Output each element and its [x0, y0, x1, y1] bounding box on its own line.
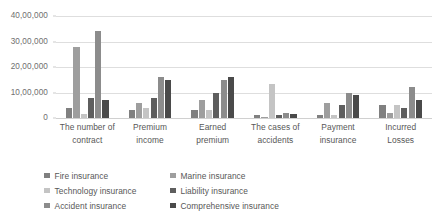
legend-label: Technology insurance — [55, 186, 137, 196]
bar — [276, 115, 282, 118]
bar — [346, 93, 352, 119]
y-axis-tick-label: 0 — [0, 114, 48, 122]
legend-swatch-icon — [44, 203, 50, 209]
bar — [151, 98, 157, 118]
bar — [324, 103, 330, 118]
bar — [317, 115, 323, 118]
x-axis-category-label: IncurredLosses — [369, 121, 432, 146]
legend-label: Liability insurance — [181, 186, 249, 196]
bar — [353, 95, 359, 118]
x-axis: The number ofcontractPremiumincomeEarned… — [56, 121, 432, 146]
bar — [283, 113, 289, 118]
bar — [394, 105, 400, 118]
legend-label: Fire insurance — [55, 171, 109, 181]
bars-layer — [56, 16, 432, 118]
x-axis-category-line: Incurred — [369, 121, 432, 134]
x-axis-category-line: income — [119, 134, 182, 147]
bar — [206, 110, 212, 118]
bar — [66, 108, 72, 118]
x-axis-category-label: Premiumincome — [119, 121, 182, 146]
x-axis-category-line: contract — [56, 134, 119, 147]
x-axis-category-line: The number of — [56, 121, 119, 134]
y-axis-tick-label: 10,00,000 — [0, 88, 48, 96]
legend-item[interactable]: Accident insurance — [44, 198, 170, 212]
x-axis-category-label: The cases ofaccidents — [244, 121, 307, 146]
legend-item[interactable]: Comprehensive insurance — [170, 198, 296, 212]
bar-group — [244, 16, 307, 118]
bar — [136, 103, 142, 118]
x-axis-category-line: Premium — [119, 121, 182, 134]
bar — [102, 100, 108, 118]
bar — [95, 31, 101, 118]
bar-group — [181, 16, 244, 118]
bar — [261, 117, 267, 118]
x-axis-category-label: The number ofcontract — [56, 121, 119, 146]
gridline — [56, 118, 432, 119]
y-axis-tick-label: 40,00,000 — [0, 12, 48, 20]
bar — [290, 114, 296, 118]
bar — [165, 80, 171, 118]
x-axis-category-line: The cases of — [244, 121, 307, 134]
bar — [401, 108, 407, 118]
bar — [143, 108, 149, 118]
x-axis-category-line: premium — [181, 134, 244, 147]
bar-group — [369, 16, 432, 118]
bar — [213, 93, 219, 119]
bar — [73, 47, 79, 118]
bar — [221, 80, 227, 118]
bar — [387, 113, 393, 118]
bar-group — [56, 16, 119, 118]
legend-item[interactable]: Technology insurance — [44, 183, 170, 198]
x-axis-category-line: Payment — [307, 121, 370, 134]
x-axis-category-line: accidents — [244, 134, 307, 147]
x-axis-category-line: insurance — [307, 134, 370, 147]
legend-swatch-icon — [170, 203, 176, 209]
legend-swatch-icon — [44, 188, 50, 194]
bar — [199, 100, 205, 118]
x-axis-category-label: Paymentinsurance — [307, 121, 370, 146]
bar — [416, 100, 422, 118]
bar — [269, 84, 275, 118]
y-axis-tick-label: 30,00,000 — [0, 37, 48, 45]
legend-label: Accident insurance — [55, 201, 127, 211]
legend-swatch-icon — [170, 188, 176, 194]
chart-legend: Fire insuranceMarine insuranceTechnology… — [44, 168, 416, 212]
bar-group — [119, 16, 182, 118]
legend-item[interactable]: Fire insurance — [44, 168, 170, 183]
x-axis-category-line: Losses — [369, 134, 432, 147]
bar — [339, 105, 345, 118]
bar — [129, 110, 135, 118]
legend-item[interactable]: Marine insurance — [170, 168, 296, 183]
plot-area: 40,00,00030,00,00020,00,00010,00,0000 — [56, 16, 432, 118]
legend-label: Marine insurance — [181, 171, 246, 181]
y-axis: 40,00,00030,00,00020,00,00010,00,0000 — [0, 16, 56, 118]
legend-label: Comprehensive insurance — [181, 201, 279, 211]
bar — [254, 115, 260, 118]
bar — [379, 105, 385, 118]
bar — [158, 77, 164, 118]
y-axis-tick-label: 20,00,000 — [0, 63, 48, 71]
bar — [81, 114, 87, 118]
bar — [409, 87, 415, 118]
bar — [228, 77, 234, 118]
x-axis-category-label: Earnedpremium — [181, 121, 244, 146]
x-axis-category-line: Earned — [181, 121, 244, 134]
bar — [88, 98, 94, 118]
bar-chart: 40,00,00030,00,00020,00,00010,00,0000 Th… — [0, 0, 444, 212]
legend-swatch-icon — [44, 173, 50, 179]
legend-item[interactable]: Liability insurance — [170, 183, 296, 198]
bar — [191, 110, 197, 118]
bar-group — [307, 16, 370, 118]
bar — [331, 115, 337, 118]
legend-swatch-icon — [170, 173, 176, 179]
